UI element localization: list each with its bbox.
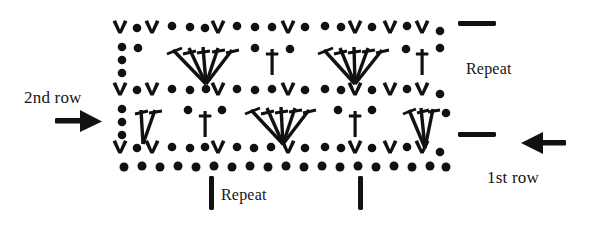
half-shell-lower-right (403, 108, 440, 148)
repeat-dash-bottom (458, 132, 496, 137)
turning-chain-column-lower (118, 105, 127, 140)
repeat-bar-left (209, 176, 214, 210)
double-crochet-upper-mid (266, 49, 279, 75)
stitch-chart-svg (0, 0, 595, 236)
half-shell-lower-left (135, 110, 162, 144)
shell-fan-lower-center (245, 107, 316, 144)
shell-fan-upper-left (167, 47, 239, 84)
foundation-chain-row (120, 162, 451, 172)
repeat-label-bottom: Repeat (221, 186, 267, 204)
turning-chain-column-upper (118, 43, 143, 78)
shell-fan-upper-right (318, 47, 389, 84)
double-crochet-upper-right (416, 49, 429, 75)
repeat-bar-right (358, 176, 363, 210)
repeat-dash-top (458, 21, 496, 26)
repeat-label-right: Repeat (466, 60, 512, 78)
second-row-label: 2nd row (24, 88, 82, 108)
double-crochet-lower-left (199, 111, 212, 137)
arrow-right-icon (55, 110, 102, 132)
crochet-diagram-canvas: 2nd row 1st row Repeat Repeat (0, 0, 595, 236)
upper-band-chain-dots (251, 44, 445, 54)
double-crochet-lower-right (349, 111, 362, 137)
first-row-label: 1st row (487, 168, 539, 188)
arrow-left-icon (521, 132, 566, 154)
